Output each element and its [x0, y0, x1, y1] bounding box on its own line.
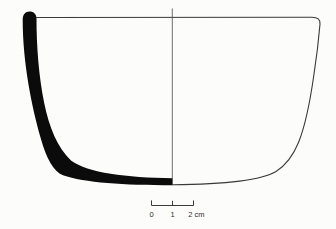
figure-canvas: 0 1 2 cm: [0, 0, 336, 229]
pottery-profile-drawing: 0 1 2 cm: [0, 0, 336, 229]
vessel-section-fill: [23, 12, 173, 186]
scale-label-one: 1: [170, 210, 174, 219]
scale-bar: 0 1 2 cm: [149, 200, 204, 218]
scale-label-zero: 0: [149, 210, 153, 219]
vessel-outline: [37, 17, 321, 185]
scale-label-two-cm: 2 cm: [188, 210, 204, 219]
